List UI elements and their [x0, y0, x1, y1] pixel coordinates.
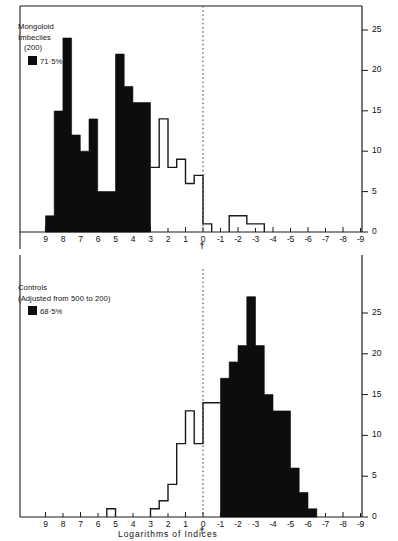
- histogram-outline-top-tail: [229, 216, 264, 232]
- legend-percent-row: 71·5%: [28, 56, 62, 68]
- legend-line-1: Mongoloid: [18, 22, 62, 33]
- x-axis-title: Logarithms of Indices: [118, 529, 218, 539]
- legend-line-2: Imbeciles: [18, 33, 62, 44]
- figure-root: Mongoloid Imbeciles (200) 71·5%: [0, 0, 398, 541]
- legend-swatch-icon: [28, 56, 37, 65]
- panel-controls: Controls (Adjusted from 500 to 200) 68·5…: [0, 255, 398, 541]
- legend-controls: Controls (Adjusted from 500 to 200) 68·5…: [18, 283, 111, 318]
- legend-line-2: (Adjusted from 500 to 200): [18, 294, 111, 305]
- histogram-filled-bottom: [221, 297, 317, 517]
- histogram-outline-bottom-main: [151, 403, 221, 517]
- legend-percent-row: 68·5%: [28, 306, 111, 318]
- histogram-outline-bottom: [107, 509, 116, 517]
- legend-swatch-icon: [28, 306, 37, 315]
- y-ticks-bottom: [362, 313, 368, 517]
- histogram-filled-top: [46, 38, 151, 232]
- legend-mongoloid: Mongoloid Imbeciles (200) 71·5%: [18, 22, 62, 67]
- legend-percent: 71·5%: [40, 57, 62, 66]
- zero-dagger-marker-top: †: [200, 241, 205, 251]
- panel-mongoloid-imbeciles: Mongoloid Imbeciles (200) 71·5%: [0, 0, 398, 255]
- legend-percent: 68·5%: [40, 307, 62, 316]
- y-ticks-top: [362, 30, 368, 232]
- histogram-outline-top: [151, 119, 212, 232]
- legend-line-3: (200): [24, 43, 62, 54]
- legend-line-1: Controls: [18, 283, 111, 294]
